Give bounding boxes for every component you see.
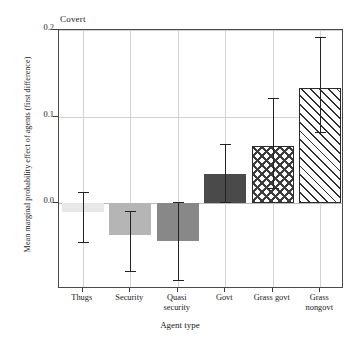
plot-area	[58, 29, 343, 288]
error-bar-cap-lower	[315, 132, 326, 133]
panel-title: Covert	[60, 14, 86, 24]
x-axis-title: Agent type	[0, 320, 360, 330]
gridline-horizontal	[59, 30, 342, 31]
error-bar-cap-lower	[78, 242, 89, 243]
x-axis-tick-mark	[82, 288, 83, 292]
y-axis-tick-label: 0.1	[28, 110, 54, 119]
chart-figure: Covert Mean marginal probability effect …	[0, 0, 360, 340]
y-axis-tick-label: 0.2	[28, 23, 54, 32]
error-bar-line	[130, 211, 131, 270]
x-axis-tick-mark	[177, 288, 178, 292]
x-axis-tick-mark	[272, 288, 273, 292]
error-bar-cap-lower	[125, 271, 136, 272]
error-bar-cap-lower	[268, 188, 279, 189]
x-axis-tick-mark	[319, 288, 320, 292]
x-axis-tick-label: Grass nongovt	[289, 293, 349, 313]
error-bar-cap-lower	[173, 280, 184, 281]
error-bar-cap-lower	[220, 202, 231, 203]
error-bar-cap-upper	[78, 192, 89, 193]
gridline-vertical	[83, 30, 84, 287]
error-bar-line	[225, 144, 226, 202]
y-axis-tick-label: 0.0	[28, 196, 54, 205]
y-axis-tick-mark	[53, 202, 58, 203]
error-bar-line	[320, 37, 321, 132]
error-bar-line	[178, 202, 179, 280]
x-axis-tick-mark	[224, 288, 225, 292]
error-bar-cap-upper	[220, 144, 231, 145]
x-axis-tick-mark	[129, 288, 130, 292]
error-bar-line	[273, 98, 274, 188]
y-axis-tick-mark	[53, 29, 58, 30]
error-bar-cap-upper	[315, 37, 326, 38]
error-bar-cap-upper	[268, 98, 279, 99]
error-bar-cap-upper	[173, 202, 184, 203]
error-bar-line	[83, 192, 84, 242]
y-axis-tick-labels: 0.00.10.2	[26, 0, 54, 340]
error-bar-cap-upper	[125, 211, 136, 212]
y-axis-tick-mark	[53, 116, 58, 117]
